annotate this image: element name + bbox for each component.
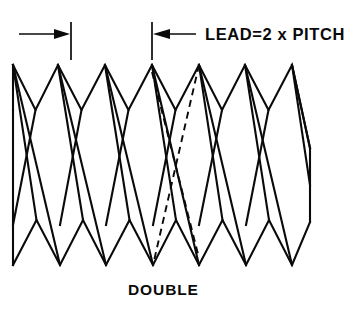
double-thread-figure: LEAD=2 x PITCH xyxy=(0,0,364,318)
thread-flank-lines-back xyxy=(13,110,269,225)
thread-diagram: LEAD=2 x PITCH xyxy=(0,0,364,318)
thread-flank-lines-front xyxy=(13,65,310,265)
lead-dimension-label: LEAD=2 x PITCH xyxy=(205,25,345,43)
thread-profile-group xyxy=(13,65,310,265)
lead-arrow-head-icon xyxy=(153,29,170,39)
dimension-annotation-group: LEAD=2 x PITCH xyxy=(14,22,345,60)
pitch-arrow-head-icon xyxy=(54,29,70,39)
thread-flank-lines-second-start xyxy=(13,65,310,220)
figure-caption: DOUBLE xyxy=(128,281,199,298)
